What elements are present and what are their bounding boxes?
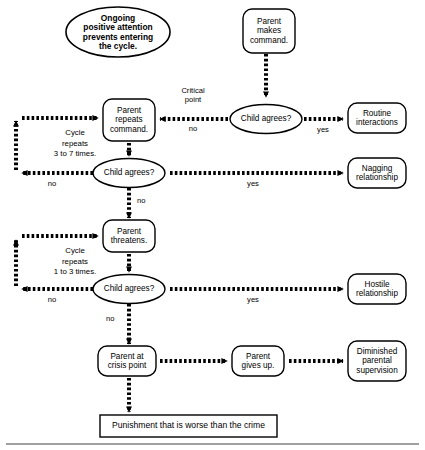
- flowchart-graphics: [0, 0, 425, 450]
- node-parent-gives-up-shape: [232, 346, 284, 376]
- node-parent-threatens-shape: [103, 220, 155, 252]
- node-parent-repeats-command-shape: [103, 99, 155, 141]
- node-child-agrees-1-shape: [230, 105, 302, 134]
- node-ongoing-attention-shape: [66, 7, 170, 57]
- node-routine-interactions-shape: [348, 103, 406, 133]
- node-diminished-supervision-shape: [348, 341, 406, 381]
- node-punishment-shape: [100, 415, 277, 437]
- node-parent-makes-command-shape: [243, 9, 295, 53]
- node-child-agrees-3-shape: [93, 275, 165, 304]
- node-parent-at-crisis-point-shape: [98, 346, 156, 376]
- node-child-agrees-2-shape: [93, 159, 165, 188]
- flowchart-canvas: Ongoing positive attention prevents ente…: [0, 0, 425, 450]
- node-nagging-relationship-shape: [348, 158, 406, 188]
- node-hostile-relationship-shape: [348, 274, 406, 304]
